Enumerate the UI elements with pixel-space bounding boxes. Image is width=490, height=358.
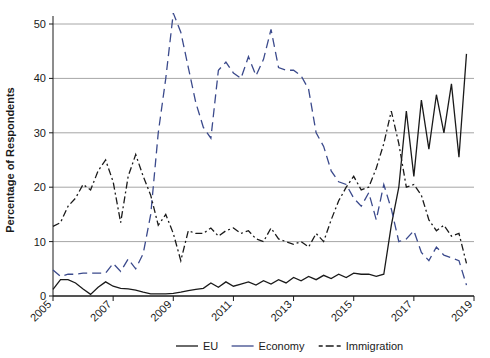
chart-legend: EUEconomyImmigration [176,340,403,352]
y-tick-label: 40 [34,72,46,84]
line-chart: 01020304050 2005200720092011201320152017… [0,0,490,358]
y-tick-label: 30 [34,127,46,139]
legend-label-immigration: Immigration [346,340,403,352]
y-axis-title-text: Percentage of Respondents [4,87,16,232]
chart-container: 01020304050 2005200720092011201320152017… [0,0,490,358]
chart-background [0,0,490,358]
y-tick-label: 10 [34,236,46,248]
y-tick-label: 20 [34,181,46,193]
y-axis-title: Percentage of Respondents [4,87,16,232]
y-tick-label: 50 [34,18,46,30]
legend-label-eu: EU [203,340,218,352]
legend-label-economy: Economy [259,340,305,352]
